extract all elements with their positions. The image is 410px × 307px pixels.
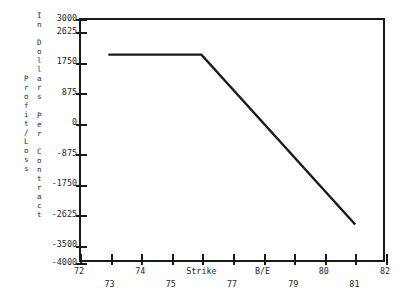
axis-title-char: C [37, 147, 42, 156]
axis-title-char: P [24, 74, 29, 83]
axis-title-char [37, 29, 42, 38]
x-axis-tick-labels: 72737475Strike77B/E79808182 [0, 265, 410, 307]
x-axis-tick-label: 73 [105, 280, 115, 288]
y-axis-tick-label: 1750 [57, 57, 77, 65]
axis-title-char: a [37, 74, 42, 83]
x-axis-tick-label: Strike [186, 267, 216, 275]
y-axis-tick-mark [76, 246, 87, 248]
axis-title-char: o [24, 92, 29, 101]
axis-title-char: e [37, 120, 42, 129]
y-axis-tick-mark [76, 124, 87, 126]
x-axis-tick-mark [294, 254, 296, 265]
y-axis-tick-label: -875 [57, 149, 77, 157]
y-axis-tick-label: -3500 [52, 240, 77, 248]
y-axis-tick-mark [76, 154, 87, 156]
axis-title-char: o [24, 146, 29, 155]
x-axis-tick-mark [233, 254, 235, 265]
axis-title-char [37, 138, 42, 147]
axis-title-char: t [37, 174, 42, 183]
x-axis-tick-mark [355, 254, 357, 265]
x-axis-tick-label: 75 [166, 280, 176, 288]
axis-title-char: s [24, 164, 29, 173]
axis-title-char: r [37, 183, 42, 192]
axis-title-char: D [37, 38, 42, 47]
x-axis-tick-mark [264, 254, 266, 265]
axis-title-char: L [24, 137, 29, 146]
axis-title-char: r [37, 129, 42, 138]
y-axis-tick-labels: 3000262517508750-875-1750-2625-3500-4000 [44, 0, 77, 307]
x-axis-tick-label: 77 [227, 280, 237, 288]
axis-title-char: / [24, 128, 29, 137]
y-axis-tick-mark [76, 215, 87, 217]
y-axis-tick-mark [76, 93, 87, 95]
axis-title-char: i [24, 110, 29, 119]
x-axis-tick-mark [172, 254, 174, 265]
x-axis-tick-mark [202, 254, 204, 265]
x-axis-tick-label: 79 [288, 280, 298, 288]
axis-title-char: l [37, 56, 42, 65]
axis-title-char: t [37, 210, 42, 219]
x-axis-tick-label: 72 [74, 267, 84, 275]
axis-title-char: P [37, 111, 42, 120]
axis-title-char: r [37, 83, 42, 92]
axis-title-char: t [24, 119, 29, 128]
axis-title-char: c [37, 201, 42, 210]
axis-title-char: l [37, 65, 42, 74]
axis-title-char: o [37, 156, 42, 165]
x-axis-tick-mark [386, 254, 388, 265]
y-axis-tick-mark [76, 19, 87, 21]
axis-title-char: s [37, 92, 42, 101]
axis-title-char: I [37, 11, 42, 20]
x-axis-tick-mark [141, 254, 143, 265]
axis-title-char: o [37, 47, 42, 56]
x-axis-tick-label: 82 [380, 267, 390, 275]
y-axis-tick-label: -1750 [52, 179, 77, 187]
x-axis-tick-mark [111, 254, 113, 265]
y-axis-tick-label: 3000 [57, 14, 77, 22]
y-axis-tick-label: 875 [62, 88, 77, 96]
axis-title-char: a [37, 192, 42, 201]
axis-title-char: s [24, 155, 29, 164]
axis-title-char: n [37, 165, 42, 174]
y-axis-tick-label: -2625 [52, 210, 77, 218]
x-axis-tick-mark [325, 254, 327, 265]
profit-loss-chart: Profit/Loss In Dollars Per Contract 3000… [0, 0, 410, 307]
x-axis-tick-label: B/E [255, 267, 270, 275]
axis-title-char: n [37, 20, 42, 29]
y-axis-title-outer: Profit/Loss [24, 74, 29, 174]
y-axis-tick-label: 2625 [57, 27, 77, 35]
x-axis-tick-label: 74 [135, 267, 145, 275]
y-axis-tick-mark [76, 185, 87, 187]
x-axis-tick-label: 80 [319, 267, 329, 275]
plot-area-frame [79, 18, 385, 262]
y-axis-title-inner: In Dollars Per Contract [37, 11, 42, 219]
axis-title-char: r [24, 83, 29, 92]
axis-title-char [37, 101, 42, 110]
y-axis-tick-mark [76, 63, 87, 65]
x-axis-tick-label: 81 [349, 280, 359, 288]
axis-title-char: f [24, 101, 29, 110]
x-axis-tick-mark [80, 254, 82, 265]
y-axis-tick-mark [76, 32, 87, 34]
